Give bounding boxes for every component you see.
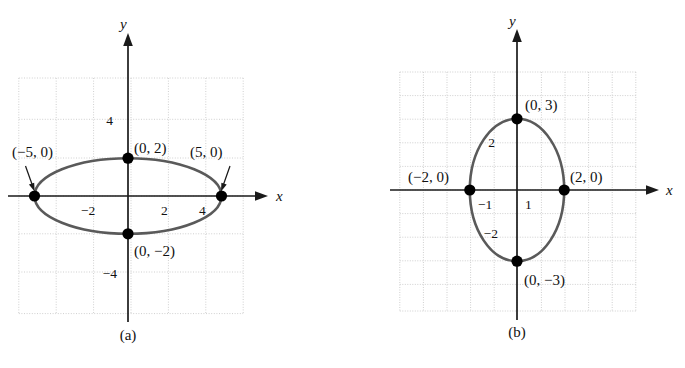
- panel-a-tick-x-2: 2: [161, 203, 168, 218]
- panel-a-point-right: [216, 190, 227, 201]
- panel-b-x-axis-label: x: [665, 182, 673, 198]
- panel-a-x-axis-label: x: [275, 188, 283, 204]
- panel-b-point-right: [559, 184, 570, 195]
- panel-b-tick-x-1: 1: [525, 197, 532, 212]
- panel-b-point-left: [464, 184, 475, 195]
- panel-a-caption: (a): [120, 327, 137, 344]
- panel-b-point-top: [511, 113, 522, 124]
- panel-a-tick-y-neg4: −4: [103, 266, 118, 281]
- ellipse-figure: x y −2 2 4 4 −4 (−5, 0) (0, 2) (5, 0) (0…: [0, 0, 685, 368]
- panel-a-label-left: (−5, 0): [12, 144, 53, 161]
- panel-a-label-right: (5, 0): [190, 144, 223, 161]
- panel-b-tick-y-neg2: −2: [484, 226, 498, 241]
- panel-a-y-axis-label: y: [118, 16, 127, 32]
- panel-a-point-top: [122, 153, 133, 164]
- panel-b-caption: (b): [508, 324, 526, 341]
- panel-a-point-bottom: [122, 228, 133, 239]
- panel-a-point-left: [29, 190, 40, 201]
- panel-b-label-right: (2, 0): [570, 169, 603, 186]
- panel-b-label-left: (−2, 0): [408, 169, 449, 186]
- panel-a-label-top: (0, 2): [134, 140, 167, 157]
- panel-b-label-top: (0, 3): [525, 97, 558, 114]
- panel-b-point-bottom: [511, 256, 522, 267]
- panel-b-y-axis-label: y: [507, 13, 516, 29]
- panel-a-tick-x-neg2: −2: [81, 203, 95, 218]
- panel-a-tick-x-4: 4: [199, 203, 206, 218]
- panel-b-tick-x-neg1: −1: [478, 197, 492, 212]
- panel-b-label-bottom: (0, −3): [524, 272, 565, 289]
- panel-a-label-bottom: (0, −2): [134, 243, 175, 260]
- panel-b-tick-y-2: 2: [488, 135, 495, 150]
- panel-a-tick-y-4: 4: [106, 113, 113, 128]
